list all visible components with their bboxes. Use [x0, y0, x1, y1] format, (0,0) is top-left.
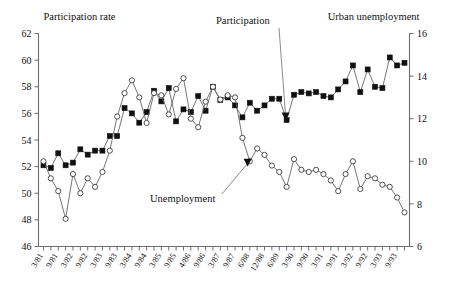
data-point-marker	[387, 184, 392, 189]
data-point-marker	[122, 91, 127, 96]
data-point-marker	[299, 167, 304, 172]
x-axis-tick-label: 9/91	[324, 252, 340, 269]
data-point-marker	[313, 167, 318, 172]
x-axis-tick-label: 9/82	[74, 252, 90, 269]
left-axis-tick-label: 56	[22, 108, 32, 119]
data-point-marker	[269, 163, 274, 168]
left-axis-tick-label: 54	[22, 135, 32, 146]
data-point-marker	[291, 92, 296, 97]
data-point-marker	[365, 174, 370, 179]
data-point-marker	[48, 176, 53, 181]
annotation-label-participation: Participation	[216, 15, 270, 26]
data-point-marker	[56, 151, 61, 156]
x-axis-tick-label: 9/92	[354, 252, 370, 269]
x-axis-tick-label: 3/92	[339, 252, 355, 269]
left-axis-tick-label: 48	[22, 214, 32, 225]
x-axis-tick-label: 3/91	[310, 252, 326, 269]
data-point-marker	[232, 95, 237, 100]
x-axis-tick-label: 3/90	[280, 252, 296, 269]
right-axis-tick-label: 12	[417, 113, 427, 124]
data-point-marker	[225, 93, 230, 98]
x-axis-tick-label: 4/86	[177, 252, 193, 269]
data-point-marker	[92, 184, 97, 189]
right-axis-title: Urban unemployment	[328, 11, 420, 22]
data-point-marker	[144, 110, 149, 115]
data-point-marker	[122, 106, 127, 111]
x-axis-tick-label: 3/87	[206, 252, 222, 269]
data-point-marker	[85, 152, 90, 157]
data-point-marker	[188, 116, 193, 121]
x-axis-tick-label: 3/84	[118, 251, 134, 269]
data-point-marker	[159, 93, 164, 98]
data-point-marker	[174, 119, 179, 124]
x-axis-tick-label: 9/86	[192, 252, 208, 269]
right-axis-tick-label: 8	[417, 199, 422, 210]
x-axis-tick-label: 9/85	[162, 252, 178, 269]
x-axis-tick-label: 3/81	[30, 252, 46, 269]
data-point-marker	[240, 135, 245, 140]
data-point-marker	[107, 148, 112, 153]
data-point-marker	[218, 97, 223, 102]
data-point-marker	[247, 100, 252, 105]
data-point-marker	[373, 84, 378, 89]
left-axis-tick-label: 62	[22, 28, 32, 39]
data-point-marker	[336, 189, 341, 194]
data-point-marker	[78, 191, 83, 196]
data-point-marker	[336, 87, 341, 92]
axes-group: 46485052545658606268101214163/819/813/82…	[22, 11, 428, 273]
left-axis-tick-label: 60	[22, 55, 32, 66]
series-group	[41, 55, 407, 221]
data-point-marker	[56, 189, 61, 194]
data-point-marker	[93, 148, 98, 153]
annotation-leader-participation	[279, 28, 286, 116]
data-point-marker	[395, 63, 400, 68]
right-axis-tick-label: 10	[417, 156, 427, 167]
data-point-marker	[402, 60, 407, 65]
data-point-marker	[181, 76, 186, 81]
annotation-label-unemployment: Unemployment	[150, 193, 215, 204]
data-point-marker	[137, 95, 142, 100]
data-point-marker	[63, 163, 68, 168]
data-point-marker	[350, 159, 355, 164]
left-axis-title: Participation rate	[44, 11, 116, 22]
right-axis-tick-label: 14	[417, 71, 427, 82]
data-point-marker	[358, 186, 363, 191]
data-point-marker	[262, 103, 267, 108]
data-point-marker	[255, 146, 260, 151]
data-point-marker	[203, 99, 208, 104]
x-axis-tick-label: 9/83	[103, 252, 119, 269]
right-axis-tick-label: 16	[417, 28, 427, 39]
data-point-marker	[166, 112, 171, 117]
data-point-marker	[328, 95, 333, 100]
data-point-marker	[174, 86, 179, 91]
x-axis-tick-label: 3/93	[369, 252, 385, 269]
x-axis-tick-label: 9/87	[221, 252, 237, 269]
data-point-marker	[48, 165, 53, 170]
x-axis-tick-label: 9/81	[44, 252, 60, 269]
data-point-marker	[321, 94, 326, 99]
left-axis-tick-label: 46	[22, 241, 32, 252]
data-point-marker	[277, 96, 282, 101]
data-point-marker	[70, 171, 75, 176]
annotation-leader-unemployment	[222, 163, 248, 194]
data-point-marker	[343, 79, 348, 84]
left-axis-tick-label: 58	[22, 81, 32, 92]
x-axis-tick-label: 9/90	[295, 252, 311, 269]
data-point-marker	[240, 115, 245, 120]
data-point-marker	[115, 134, 120, 139]
x-axis-tick-label: 3/85	[148, 252, 164, 269]
right-axis-tick-label: 6	[417, 241, 422, 252]
data-point-marker	[63, 216, 68, 221]
data-point-marker	[151, 91, 156, 96]
data-point-marker	[262, 152, 267, 157]
data-point-marker	[115, 114, 120, 119]
data-point-marker	[78, 147, 83, 152]
data-point-marker	[380, 182, 385, 187]
chart-svg: 46485052545658606268101214163/819/813/82…	[0, 0, 461, 297]
data-point-marker	[255, 108, 260, 113]
data-point-marker	[100, 169, 105, 174]
x-axis-tick-label: 12/88	[248, 252, 266, 273]
data-point-marker	[85, 176, 90, 181]
data-point-marker	[284, 184, 289, 189]
data-point-marker	[107, 134, 112, 139]
